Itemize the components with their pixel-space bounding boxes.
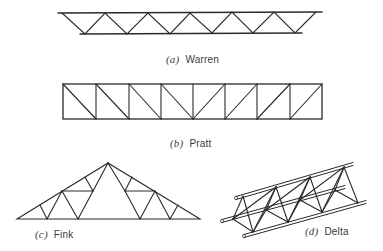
caption-pratt: (b)Pratt [170,137,212,149]
fink-web-left [40,163,108,219]
caption-pratt-name: Pratt [189,138,211,149]
caption-pratt-letter: (b) [170,137,183,149]
caption-warren: (a)Warren [166,53,219,65]
caption-delta-letter: (d) [305,225,318,237]
pratt-truss [63,84,322,119]
caption-warren-name: Warren [185,54,219,65]
warren-bottom-chord [80,33,302,34]
caption-delta-name: Delta [324,226,348,237]
caption-warren-letter: (a) [166,53,179,65]
caption-fink: (c)Fink [35,228,74,240]
truss-types-diagram: (a)Warren (b)Pratt (c)Fink (d)Delta [0,0,383,251]
delta-top-tube [235,163,353,200]
fink-truss [17,163,200,219]
caption-fink-letter: (c) [35,228,48,240]
fink-outline [17,163,200,219]
warren-truss [58,12,322,34]
caption-fink-name: Fink [54,229,74,240]
pratt-verticals [96,84,290,119]
warren-web [62,12,316,34]
fink-web-right [108,163,178,219]
caption-delta: (d)Delta [305,225,349,237]
